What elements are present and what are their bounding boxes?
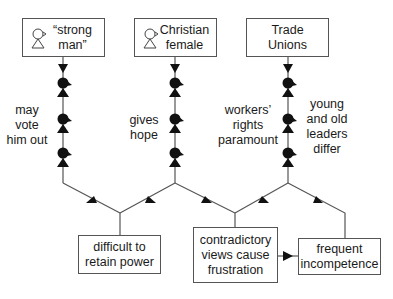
arrow-down-icon	[170, 64, 180, 73]
actor-label: “strong man”	[53, 23, 92, 53]
actor-box-strong-man: “strong man”	[22, 18, 105, 57]
actor-box-christian-female: Christian female	[134, 18, 217, 57]
person-outline-icon	[30, 28, 48, 50]
arrow-down-icon	[58, 64, 68, 73]
outcome-label: frequent incompetence	[301, 242, 379, 272]
influence-label: may vote him out	[2, 103, 52, 148]
influence-label: gives hope	[120, 113, 168, 143]
outcome-label: contradictory views cause frustration	[200, 233, 272, 278]
outcome-box-frequent-incompetence: frequent incompetence	[298, 238, 381, 275]
actor-box-trade-unions: Trade Unions	[246, 18, 329, 57]
influence-label: workers’ rights paramount	[215, 103, 281, 148]
arrow-down-icon	[283, 64, 293, 73]
actor-label: Christian female	[160, 23, 209, 53]
outcome-box-contradictory-views: contradictory views cause frustration	[193, 227, 278, 283]
actor-label: Trade Unions	[268, 23, 307, 53]
influence-label: young and old leaders differ	[304, 97, 350, 157]
person-outline-icon	[142, 28, 160, 50]
outcome-box-difficult-to-retain-power: difficult to retain power	[78, 235, 161, 274]
outcome-label: difficult to retain power	[85, 240, 154, 270]
